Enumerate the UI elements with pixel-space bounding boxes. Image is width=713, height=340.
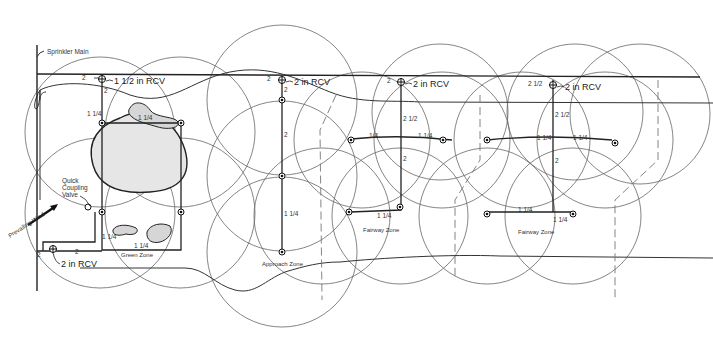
sprinkler-head-icon — [484, 211, 490, 217]
sand-trap-bottom-right — [147, 224, 171, 243]
valve-label-4: 2 in RCV — [565, 82, 601, 92]
pipe-size: 1 1/4 — [134, 242, 149, 249]
pipe-size: 2 — [403, 155, 407, 162]
sprinkler-head-icon — [99, 209, 105, 215]
pipe-size: 1 1/4 — [573, 134, 588, 141]
pipe-size: 1 1/4 — [284, 210, 299, 217]
sprinkler-head-icon — [279, 249, 285, 255]
rcv-valve-icon — [549, 81, 557, 89]
green-zone-label: Green Zone — [121, 252, 154, 258]
main-size-5: 2 — [37, 251, 41, 258]
sprinkler-head-icon — [178, 209, 184, 215]
main-size-4: 2 1/2 — [528, 80, 543, 87]
valve-label-5: 2 in RCV — [61, 259, 97, 269]
sprinkler-head-icon — [99, 120, 105, 126]
pipe-size: 1 1/4 — [377, 212, 392, 219]
quick-coupling-label-line3: Valve — [62, 191, 78, 198]
sprinkler-head-icon — [570, 211, 576, 217]
rcv-valve-icon — [278, 76, 286, 84]
valve-label-1: 1 1/2 in RCV — [114, 76, 165, 86]
sprinkler-head-icon — [612, 140, 618, 146]
pipe-size: 2 — [284, 86, 288, 93]
sprinkler-main-leader — [37, 51, 44, 57]
main-size-1: 2 — [82, 74, 86, 81]
sprinkler-head-icon — [279, 173, 285, 179]
rough-boundary-2 — [455, 95, 480, 280]
pipe-size: 2 — [104, 87, 108, 94]
pipe-size: 2 — [555, 157, 559, 164]
sprinkler-head-icon — [484, 137, 490, 143]
valve-label-3: 2 in RCV — [413, 79, 449, 89]
fairway-zone-label-2: Fairway Zone — [518, 229, 555, 235]
fairway-edge-bottom — [80, 255, 713, 291]
sprinkler-head-icon — [346, 209, 352, 215]
sprinkler-head-icon — [178, 120, 184, 126]
fairway-zone-label-1: Fairway Zone — [363, 227, 400, 233]
rcv-valve-icon — [397, 78, 405, 86]
pipe-size: 1 1/4 — [87, 110, 102, 117]
prevailing-wind-label: Prevailing Wind — [7, 211, 45, 239]
sprinkler-head-icon — [348, 137, 354, 143]
pipe-size: 2 1/2 — [555, 111, 570, 118]
rcv-valve-icon — [98, 75, 106, 83]
irrigation-diagram: Sprinkler Main 1 1/2 in RCV 2 in RCV 2 i… — [0, 0, 713, 340]
pipe-size: 2 — [284, 131, 288, 138]
sprinkler-head-icon — [397, 204, 403, 210]
pipe-size: 1/4 — [369, 132, 378, 139]
pipe-size: 1 1/4 — [518, 206, 533, 213]
approach-zone-label: Approach Zone — [262, 261, 304, 267]
quick-coupling-valve-icon — [85, 204, 91, 210]
sprinkler-main-label: Sprinkler Main — [47, 48, 89, 56]
pipe-size: 2 1/2 — [403, 115, 418, 122]
pipe-size: 2 — [75, 248, 79, 255]
pipe-size: 1 1/4 — [553, 216, 568, 223]
sprinkler-head-icon — [440, 137, 446, 143]
sand-trap-bottom-left — [113, 225, 137, 235]
pipe-size: 1 1/4 — [102, 233, 117, 240]
main-size-3: 2 — [387, 77, 391, 84]
pipe-size: 1 1/4 — [418, 132, 433, 139]
valve-label-2: 2 in RCV — [294, 77, 330, 87]
main-size-2: 2 — [267, 75, 271, 82]
sprinkler-head-icon — [279, 97, 285, 103]
rcv-valve-icon — [49, 245, 57, 253]
pipe-size: 1 1/4 — [138, 114, 153, 121]
pipe-size: 1 1/4 — [537, 134, 552, 141]
